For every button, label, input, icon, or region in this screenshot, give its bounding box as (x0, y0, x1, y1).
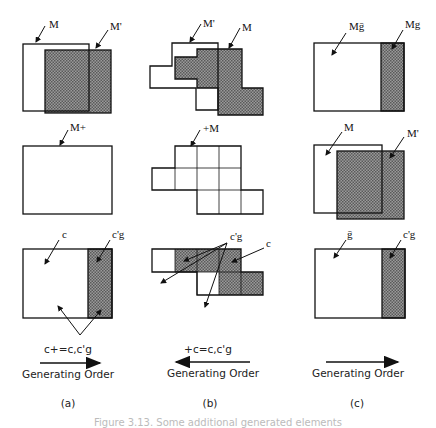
label-m: M (242, 21, 252, 33)
panel-c-row3: ḡ c'g (315, 228, 416, 318)
panel-a-row3-c: c c'g (23, 228, 125, 335)
label-m-g: Mg (405, 18, 421, 30)
pointer-arrow (36, 26, 45, 42)
panel-label-b: (b) (203, 397, 218, 409)
label-m-prime: M' (110, 20, 122, 32)
shape-m-g (381, 43, 404, 111)
pointer-arrow (190, 24, 201, 42)
panel-a-row1-overlap: M M' (23, 18, 122, 113)
label-c-prime-g: c'g (403, 228, 416, 240)
shape-m-plus (23, 146, 112, 214)
panel-b-row3-cells: c'g c (152, 230, 271, 307)
pointer-arrow (229, 28, 240, 48)
generating-order-label: Generating Order (22, 368, 115, 380)
label-m: M (344, 121, 354, 133)
label-c: c (62, 228, 67, 240)
diagram-canvas: M M' M+ c c'g c+=c,c'g Generating Order … (0, 0, 436, 428)
shape-m-prime (45, 50, 111, 113)
pointer-arrow (191, 130, 200, 146)
formula-a: c+=c,c'g (44, 343, 92, 355)
shape-c-prime-g (88, 249, 112, 318)
shape-c-prime-g (382, 249, 405, 318)
generating-order-label: Generating Order (312, 367, 405, 379)
pointer-arrow (60, 130, 68, 145)
pointer-arrow (45, 240, 59, 264)
panel-b: M' M +M c'g (150, 17, 271, 409)
panel-label-c: (c) (350, 397, 364, 409)
figure-caption: Figure 3.13. Some additional generated e… (94, 417, 342, 428)
panel-label-a: (a) (61, 397, 76, 409)
label-plus-m: +M (203, 122, 219, 134)
label-m-prime: M' (407, 127, 419, 139)
label-m-plus: M+ (70, 121, 86, 133)
panel-c-row2: M M' (314, 121, 419, 219)
pointer-arrow (96, 30, 108, 48)
label-m-prime: M' (203, 17, 215, 29)
panel-a-row2-mplus: M+ (23, 121, 112, 214)
generating-order-label: Generating Order (167, 367, 260, 379)
label-c-prime-g: c'g (230, 230, 243, 242)
panel-b-row2-grid: +M (152, 122, 263, 214)
panel-b-row1-overlap: M' M (150, 17, 263, 115)
label-m-gbar: Mḡ (349, 20, 365, 32)
label-g-bar: ḡ (347, 228, 353, 240)
label-c-prime-g: c'g (112, 228, 125, 240)
shape-m (175, 49, 263, 115)
panel-c-row1: Mḡ Mg (314, 18, 421, 111)
shape-m-prime (337, 151, 404, 219)
pointer-arrow (332, 33, 346, 55)
label-c: c (266, 237, 271, 249)
label-m: M (49, 18, 59, 30)
panel-c: Mḡ Mg M M' ḡ c'g Generating Order (c) (312, 18, 421, 409)
pointer-arrow (58, 306, 80, 335)
formula-b: +c=c,c'g (184, 343, 232, 355)
panel-a: M M' M+ c c'g c+=c,c'g Generating Order … (22, 18, 125, 409)
